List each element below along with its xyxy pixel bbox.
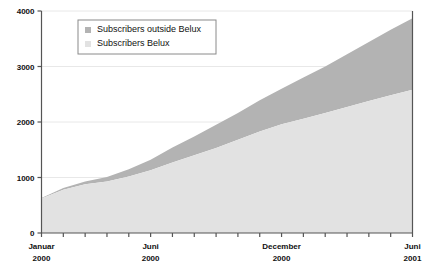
x-tick-label-month-11: December [262,242,301,251]
x-tick-label-month-5: Juni [142,242,158,251]
y-tick-label-1000: 1000 [17,174,35,183]
legend-swatch-1 [85,41,91,47]
y-tick-label-0: 0 [30,229,35,238]
x-tick-label-year-5: 2000 [142,254,160,263]
chart-legend: Subscribers outside BeluxSubscribers Bel… [78,20,216,54]
x-tick-label-month-0: Januar [28,242,54,251]
legend-label-1: Subscribers Belux [97,38,170,48]
legend-swatch-0 [85,27,91,33]
chart-container: 01000200030004000 Januar2000Juni2000Dece… [0,0,428,269]
legend-label-0: Subscribers outside Belux [97,24,202,34]
x-tick-label-year-11: 2000 [273,254,291,263]
x-tick-label-month-17: Juni [404,242,420,251]
y-tick-label-4000: 4000 [17,7,35,16]
stacked-area-chart: 01000200030004000 Januar2000Juni2000Dece… [0,0,428,269]
x-tick-label-year-0: 2000 [33,254,51,263]
y-tick-label-3000: 3000 [17,63,35,72]
x-tick-label-year-17: 2001 [404,254,422,263]
y-tick-label-2000: 2000 [17,118,35,127]
